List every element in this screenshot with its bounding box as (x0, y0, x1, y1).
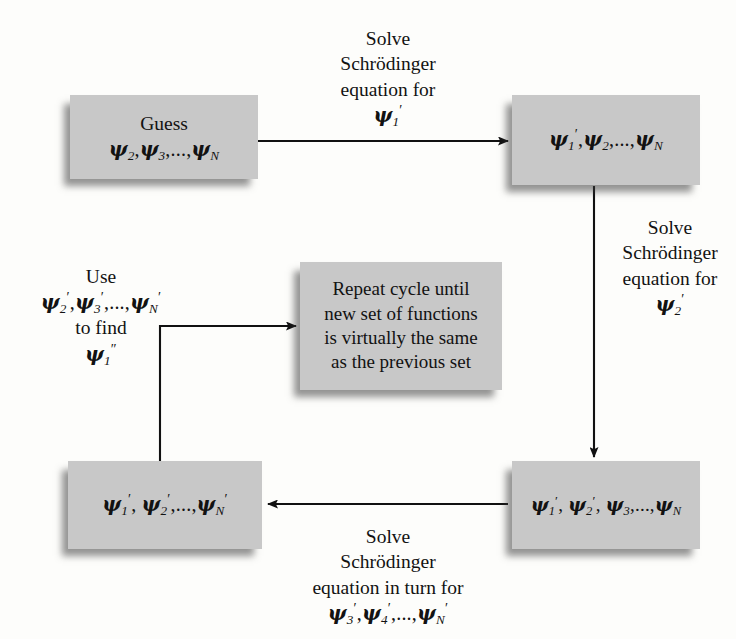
box-two-primed[interactable]: ψ1′, ψ2′, ψ3,...,ψN (512, 461, 700, 549)
label-bottom-arrow-line-2: Schrödinger (281, 549, 495, 574)
label-right-arrow-line-2: Schrödinger (608, 240, 732, 265)
box-all-primed-wavefunctions: ψ1′, ψ2′,...,ψN′ (102, 492, 228, 518)
label-bottom-arrow-line-1: Solve (281, 524, 495, 549)
label-top-arrow-line-2: Schrödinger (303, 51, 473, 76)
label-top-arrow: Solve Schrödinger equation for ψ1′ (303, 26, 473, 128)
label-left-feedback-line-1: Use (20, 264, 182, 289)
label-right-arrow-line-1: Solve (608, 215, 732, 240)
box-repeat-cycle-line-4: as the previous set (331, 350, 471, 374)
box-first-solution[interactable]: ψ1′,ψ2,...,ψN (512, 95, 700, 185)
box-repeat-cycle-line-2: new set of functions (324, 302, 478, 326)
label-top-arrow-line-1: Solve (303, 26, 473, 51)
box-repeat-cycle-line-1: Repeat cycle until (332, 277, 469, 301)
box-all-primed[interactable]: ψ1′, ψ2′,...,ψN′ (68, 461, 262, 549)
box-two-primed-wavefunctions: ψ1′, ψ2′, ψ3,...,ψN (531, 492, 682, 517)
label-right-arrow-symbol: ψ2′ (608, 291, 732, 317)
label-top-arrow-line-3: equation for (303, 77, 473, 102)
box-guess[interactable]: Guess ψ2,ψ3,...,ψN (70, 95, 258, 179)
box-guess-line-1: Guess (140, 112, 188, 137)
box-repeat-cycle-line-3: is virtually the same (324, 326, 478, 350)
box-repeat-cycle[interactable]: Repeat cycle until new set of functions … (300, 262, 502, 390)
box-guess-wavefunctions: ψ2,ψ3,...,ψN (109, 137, 220, 163)
label-left-feedback: Use ψ2′,ψ3′,...,ψN′ to find ψ1″ (20, 264, 182, 367)
label-right-arrow-line-3: equation for (608, 266, 732, 291)
diagram-canvas: Guess ψ2,ψ3,...,ψN ψ1′,ψ2,...,ψN Repeat … (0, 0, 736, 639)
box-first-solution-wavefunctions: ψ1′,ψ2,...,ψN (549, 127, 663, 153)
label-left-feedback-line-3: to find (20, 315, 182, 340)
label-bottom-arrow-symbol: ψ3′,ψ4′,...,ψN′ (281, 600, 495, 626)
label-bottom-arrow: Solve Schrödinger equation in turn for ψ… (281, 524, 495, 626)
label-right-arrow: Solve Schrödinger equation for ψ2′ (608, 215, 732, 317)
label-left-feedback-symbol-set: ψ2′,ψ3′,...,ψN′ (20, 289, 182, 315)
label-bottom-arrow-line-3: equation in turn for (281, 575, 495, 600)
label-left-feedback-symbol-target: ψ1″ (20, 341, 182, 367)
label-top-arrow-symbol: ψ1′ (303, 102, 473, 128)
